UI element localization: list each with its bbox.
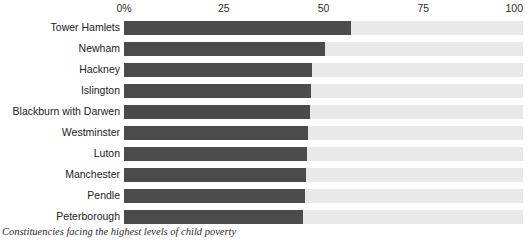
bar-track [124,42,523,56]
bar-row: Pendle [0,186,532,207]
bar-fill [124,84,311,98]
bar-fill [124,147,307,161]
category-label: Tower Hamlets [51,18,120,39]
bar-fill [124,105,310,119]
category-label: Manchester [65,165,120,186]
bar-fill [124,42,325,56]
bar-track [124,105,523,119]
bar-fill [124,126,308,140]
bar-track [124,210,523,224]
category-label: Hackney [79,60,120,81]
x-axis: 0%255075100 [0,0,532,16]
axis-tick-label: 100 [505,1,523,15]
category-label: Westminster [62,123,120,144]
bar-track [124,126,523,140]
chart-caption: Constituencies facing the highest levels… [2,226,236,237]
bar-track [124,21,523,35]
axis-tick-label: 25 [218,1,230,15]
bar-row: Blackburn with Darwen [0,102,532,123]
axis-tick-label: 75 [417,1,429,15]
bar-fill [124,63,312,77]
category-label: Blackburn with Darwen [13,102,120,123]
bar-row: Westminster [0,123,532,144]
bar-track [124,189,523,203]
bar-row: Newham [0,39,532,60]
category-label: Islington [81,81,120,102]
bar-row: Islington [0,81,532,102]
bar-track [124,63,523,77]
bar-fill [124,21,351,35]
plot-area: Tower HamletsNewhamHackneyIslingtonBlack… [0,18,532,228]
category-label: Newham [79,39,120,60]
category-label: Peterborough [56,207,120,228]
axis-tick-label: 0% [116,1,131,15]
bar-fill [124,168,306,182]
bar-row: Luton [0,144,532,165]
bar-chart: 0%255075100 Tower HamletsNewhamHackneyIs… [0,0,532,240]
category-label: Luton [94,144,120,165]
bar-track [124,84,523,98]
bar-row: Manchester [0,165,532,186]
bar-row: Tower Hamlets [0,18,532,39]
bar-track [124,147,523,161]
bar-row: Hackney [0,60,532,81]
bar-row: Peterborough [0,207,532,228]
axis-tick-label: 50 [318,1,330,15]
bar-track [124,168,523,182]
bar-fill [124,210,303,224]
bar-fill [124,189,305,203]
category-label: Pendle [87,186,120,207]
